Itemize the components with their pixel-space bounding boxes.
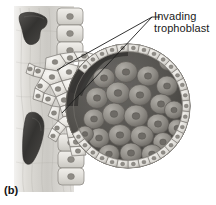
trophoblast-nucleus: [169, 65, 173, 69]
trophoblast-nucleus: [175, 73, 179, 77]
trophoblast-nucleus: [184, 104, 188, 108]
trophoblast-nucleus: [76, 135, 80, 139]
trophoblast-nucleus: [169, 143, 173, 147]
trophoblast-nucleus: [121, 162, 125, 166]
trophoblast-nucleus: [142, 160, 146, 164]
trophoblast-nucleus: [110, 160, 114, 164]
trophoblast-nucleus: [142, 48, 146, 52]
figure-panel: Invading trophoblast (b): [0, 0, 216, 205]
trophoblast-nucleus: [152, 52, 156, 56]
trophoblast-nucleus: [100, 52, 104, 56]
trophoblast-nucleus: [152, 156, 156, 160]
invading-trophoblast-label: Invading trophoblast: [154, 10, 210, 34]
trophoblast-nucleus: [131, 46, 135, 50]
trophoblast-nucleus: [180, 125, 184, 129]
trophoblast-nucleus: [110, 48, 114, 52]
trophoblast-nucleus: [83, 65, 87, 69]
label-line-1: Invading: [154, 10, 210, 22]
trophoblast-nucleus: [100, 156, 104, 160]
trophoblast-nucleus: [180, 83, 184, 87]
trophoblast-nucleus: [175, 135, 179, 139]
trophoblast-nucleus: [161, 58, 165, 62]
trophoblast-nucleus: [91, 151, 95, 155]
trophoblast-nucleus: [91, 58, 95, 62]
label-line-2: trophoblast: [154, 22, 210, 34]
trophoblast-nucleus: [183, 93, 187, 97]
trophoblast-nucleus: [161, 151, 165, 155]
panel-letter: (b): [4, 184, 18, 196]
trophoblast-nucleus: [83, 143, 87, 147]
trophoblast-nucleus: [131, 162, 135, 166]
trophoblast-nucleus: [183, 115, 187, 119]
